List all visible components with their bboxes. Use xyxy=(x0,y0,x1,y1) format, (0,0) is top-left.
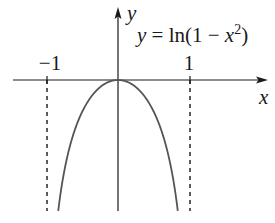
x-axis-label: x xyxy=(258,85,269,109)
equation-close: ) xyxy=(241,23,248,47)
y-axis-label: y xyxy=(125,1,137,25)
equation-label: y = ln(1 − x2) xyxy=(135,22,248,47)
x-tick-label-neg1: −1 xyxy=(39,51,61,75)
equation-sup: 2 xyxy=(234,22,241,37)
equation-lhs: y xyxy=(135,23,147,47)
x-tick-label-1: 1 xyxy=(184,51,195,75)
equation-mid: = ln(1 − xyxy=(146,23,225,47)
function-graph: −1 1 x y y = ln(1 − x2) xyxy=(0,0,275,223)
